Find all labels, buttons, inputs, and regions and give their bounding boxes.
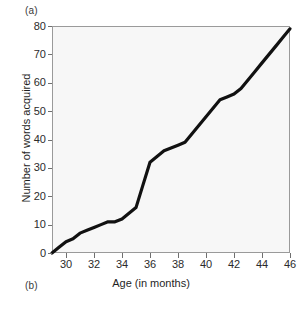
y-tick-mark <box>48 83 52 84</box>
x-tick-label: 36 <box>137 259 163 270</box>
x-tick-mark <box>150 253 151 258</box>
x-axis-title: Age (in months) <box>0 277 302 289</box>
figure-container: (a) 01020304050607080 303234363840424446… <box>0 0 302 309</box>
x-tick-label: 44 <box>249 259 275 270</box>
y-tick-mark <box>48 111 52 112</box>
y-tick-mark <box>48 26 52 27</box>
data-series-line <box>52 29 290 253</box>
y-tick-label: 0 <box>20 248 46 259</box>
chart-line-plot <box>52 26 290 253</box>
x-tick-mark <box>66 253 67 258</box>
x-tick-label: 34 <box>109 259 135 270</box>
x-tick-mark <box>178 253 179 258</box>
x-tick-mark <box>94 253 95 258</box>
x-tick-mark <box>206 253 207 258</box>
x-tick-mark <box>290 253 291 258</box>
x-tick-mark <box>262 253 263 258</box>
x-tick-label: 30 <box>53 259 79 270</box>
x-tick-mark <box>122 253 123 258</box>
y-tick-mark <box>48 168 52 169</box>
x-tick-label: 42 <box>221 259 247 270</box>
panel-label-b: (b) <box>25 281 38 291</box>
y-tick-mark <box>48 225 52 226</box>
x-axis-tick-labels: 303234363840424446 <box>0 259 302 275</box>
y-tick-mark <box>48 54 52 55</box>
x-tick-label: 38 <box>165 259 191 270</box>
y-tick-mark <box>48 253 52 254</box>
x-tick-label: 46 <box>277 259 302 270</box>
y-axis-title: Number of words acquired <box>20 28 32 248</box>
x-tick-label: 32 <box>81 259 107 270</box>
x-tick-label: 40 <box>193 259 219 270</box>
y-tick-mark <box>48 140 52 141</box>
y-tick-mark <box>48 196 52 197</box>
x-tick-mark <box>234 253 235 258</box>
